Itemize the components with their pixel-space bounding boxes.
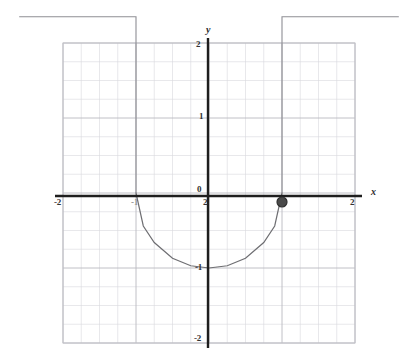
y-axis-label: y (206, 24, 210, 35)
x-tick-neg1: -1 (131, 197, 138, 207)
x-axis-label: x (371, 186, 376, 197)
x-tick-0: 2 (203, 197, 207, 207)
graph-canvas (0, 0, 417, 364)
y-tick-neg2: -2 (194, 333, 201, 343)
y-tick-0: 0 (197, 184, 201, 194)
x-tick-neg2: -2 (54, 197, 61, 207)
y-tick-neg1: -1 (195, 262, 202, 272)
graph-figure: y x 2 1 0 -1 -2 -2 -1 2 2 (0, 0, 417, 364)
y-tick-2: 2 (196, 39, 200, 49)
x-tick-2: 2 (350, 197, 354, 207)
marked-point-dot (277, 197, 287, 207)
y-tick-1: 1 (199, 111, 203, 121)
